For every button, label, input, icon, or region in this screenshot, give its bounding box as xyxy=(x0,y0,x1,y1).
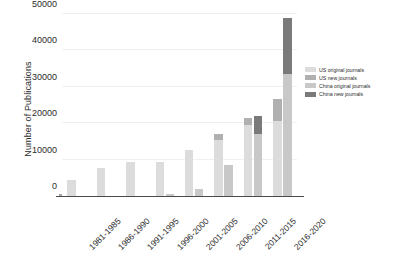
bar-segment xyxy=(273,121,282,196)
bar-segment xyxy=(185,150,194,196)
bar-group xyxy=(126,14,145,196)
legend-label: US original journals xyxy=(319,67,364,73)
y-tick-label: 40000 xyxy=(32,35,57,45)
bar xyxy=(185,150,194,196)
bar xyxy=(244,118,253,196)
legend-label: US new journals xyxy=(319,75,357,81)
bar xyxy=(67,180,76,196)
bar-group xyxy=(67,14,86,196)
bar-segment xyxy=(67,180,76,196)
bar xyxy=(126,162,135,196)
legend-item: China new journals xyxy=(305,91,370,98)
bar xyxy=(254,116,263,196)
bar-group xyxy=(214,14,233,196)
bar-segment xyxy=(254,116,263,134)
bar-group xyxy=(244,14,263,196)
bar-segment xyxy=(97,168,106,196)
bar-segment xyxy=(273,99,282,121)
y-tick-label: 20000 xyxy=(32,108,57,118)
bar-segment xyxy=(126,162,135,196)
plot-inner: 01000020000300004000050000 xyxy=(62,14,297,196)
bar xyxy=(156,162,165,196)
legend-label: China original journals xyxy=(319,83,370,89)
bar-segment xyxy=(283,18,292,74)
bar-group xyxy=(97,14,116,196)
chart-legend: US original journalsUS new journalsChina… xyxy=(305,66,370,98)
legend-swatch xyxy=(305,83,316,88)
y-tick-label: 0 xyxy=(52,181,57,191)
y-tick-label: 50000 xyxy=(32,0,57,9)
x-tick-label: 2016-2020 xyxy=(292,216,328,252)
legend-swatch xyxy=(305,67,316,72)
bar-segment xyxy=(214,140,223,196)
legend-item: US original journals xyxy=(305,66,370,73)
bar xyxy=(224,165,233,196)
bar-group xyxy=(273,14,292,196)
plot-area: 01000020000300004000050000 1981-19851986… xyxy=(62,14,297,196)
bar xyxy=(97,168,106,196)
bar-segment xyxy=(244,125,253,196)
bar-segment xyxy=(283,74,292,196)
legend-item: US new journals xyxy=(305,74,370,81)
bar-group xyxy=(185,14,204,196)
bar-segment xyxy=(224,165,233,196)
legend-item: China original journals xyxy=(305,82,370,89)
bar xyxy=(214,134,223,196)
bar xyxy=(273,99,282,196)
legend-label: China new journals xyxy=(319,91,363,97)
bar-group xyxy=(156,14,175,196)
bar-segment xyxy=(156,162,165,196)
bar xyxy=(283,18,292,196)
y-tick-label: 10000 xyxy=(32,145,57,155)
x-axis-line xyxy=(56,196,304,197)
bar-segment xyxy=(244,118,253,125)
bar-segment xyxy=(254,134,263,196)
legend-swatch xyxy=(305,92,316,97)
bar-chart-figure: Number of Publications 01000020000300004… xyxy=(0,0,396,257)
y-tick-label: 30000 xyxy=(32,72,57,82)
legend-swatch xyxy=(305,75,316,80)
